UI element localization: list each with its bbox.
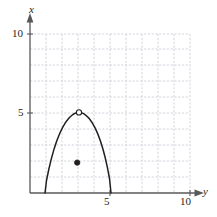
- vertical-axis-label: x: [29, 4, 34, 15]
- interior-filled-point-marker: [75, 160, 80, 165]
- grid-lines: [30, 34, 190, 193]
- tick-label-vertical-5: 5: [18, 107, 24, 118]
- parabola-figure: 10 5 5 10 x y: [0, 0, 217, 217]
- tick-label-vertical-10: 10: [12, 28, 23, 39]
- tick-label-horizontal-5: 5: [104, 196, 110, 207]
- tick-label-horizontal-10: 10: [180, 196, 191, 207]
- vertex-open-point-marker: [76, 110, 81, 115]
- horizontal-axis-label: y: [203, 186, 208, 197]
- plot-canvas: [0, 0, 217, 217]
- axis-lines: [30, 20, 197, 193]
